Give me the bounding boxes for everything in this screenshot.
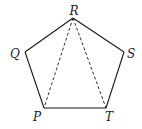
diagonal-r-t: [73, 18, 106, 108]
pentagon-diagram: R S T P Q: [0, 0, 142, 129]
pentagon-edges: [25, 18, 124, 108]
edge-q-r: [25, 18, 73, 52]
label-t: T: [105, 110, 114, 124]
diagonal-r-p: [44, 18, 73, 108]
label-r: R: [68, 4, 78, 18]
edge-r-s: [73, 18, 124, 52]
edge-s-t: [106, 52, 124, 108]
label-s: S: [127, 47, 135, 61]
label-q: Q: [10, 47, 20, 61]
label-p: P: [32, 110, 42, 124]
edge-p-q: [25, 52, 44, 108]
